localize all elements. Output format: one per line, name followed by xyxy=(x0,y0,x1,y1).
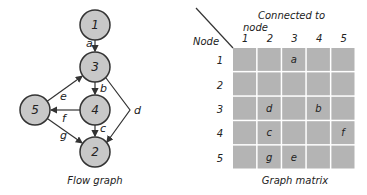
matrix-cell xyxy=(233,72,256,95)
node-label-1: 1 xyxy=(91,18,99,32)
edge-label-g: g xyxy=(60,129,67,142)
matrix-cell xyxy=(258,72,281,95)
col-header-line1: Connected to xyxy=(258,10,325,21)
matrix-cell xyxy=(233,48,256,71)
matrix-cell xyxy=(282,97,305,120)
edge-label-f: f xyxy=(62,112,68,125)
matrix-cell-value-e: e xyxy=(291,152,297,163)
matrix-cell xyxy=(331,48,354,71)
row-label-4: 4 xyxy=(217,128,223,139)
matrix-cell-value-b: b xyxy=(315,103,321,114)
graph-matrix: Connected tonodeNode123451a23db4cf5geGra… xyxy=(193,8,355,186)
column-label-3: 3 xyxy=(291,33,297,44)
graph-matrix-caption: Graph matrix xyxy=(262,175,329,186)
matrix-cell-value-c: c xyxy=(266,127,272,138)
col-header-line2: node xyxy=(243,22,268,33)
column-label-1: 1 xyxy=(242,33,248,44)
column-label-2: 2 xyxy=(267,33,273,44)
matrix-cell xyxy=(307,72,330,95)
flow-graph: abcdefg13452Flow graph xyxy=(20,10,142,186)
edge-label-e: e xyxy=(60,90,67,103)
column-label-4: 4 xyxy=(316,33,322,44)
flow-graph-caption: Flow graph xyxy=(67,175,122,186)
row-header: Node xyxy=(193,36,219,47)
node-label-5: 5 xyxy=(31,103,39,117)
matrix-cell xyxy=(331,72,354,95)
matrix-cell xyxy=(331,97,354,120)
diagram-canvas: abcdefg13452Flow graph Connected tonodeN… xyxy=(0,0,367,195)
edge-label-d: d xyxy=(134,104,142,117)
matrix-cell-value-d: d xyxy=(266,103,273,114)
matrix-cell xyxy=(282,121,305,144)
matrix-cell xyxy=(282,72,305,95)
node-label-3: 3 xyxy=(91,60,99,74)
matrix-cell xyxy=(307,146,330,169)
matrix-cell xyxy=(307,121,330,144)
node-label-2: 2 xyxy=(91,145,99,159)
row-label-5: 5 xyxy=(217,153,223,164)
row-label-1: 1 xyxy=(217,55,223,66)
matrix-cell xyxy=(307,48,330,71)
matrix-cell-value-a: a xyxy=(291,54,297,65)
matrix-cell xyxy=(233,121,256,144)
node-label-4: 4 xyxy=(91,103,99,117)
matrix-cell xyxy=(233,97,256,120)
matrix-cell xyxy=(331,146,354,169)
row-label-2: 2 xyxy=(217,80,223,91)
matrix-cell xyxy=(258,48,281,71)
edge-label-b: b xyxy=(100,82,107,95)
matrix-cell xyxy=(233,146,256,169)
column-label-5: 5 xyxy=(341,33,347,44)
row-label-3: 3 xyxy=(217,104,223,115)
matrix-cell-value-g: g xyxy=(266,152,272,163)
